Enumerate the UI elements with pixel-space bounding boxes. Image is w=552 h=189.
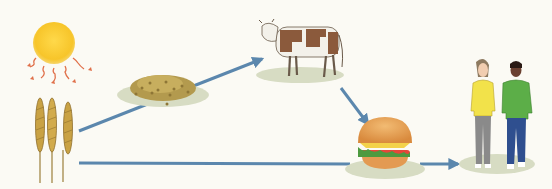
cow-icon: [256, 19, 344, 83]
wheat-icon: [36, 98, 73, 183]
woman-figure: [471, 59, 495, 168]
arrow-cow-to-burger: [341, 88, 368, 124]
food-chain-diagram: [0, 0, 552, 189]
arrow-wheat-to-burger: [79, 163, 350, 164]
grain-pile-icon: [117, 75, 209, 107]
man-figure: [502, 61, 532, 169]
humans-icon: [459, 59, 535, 174]
hamburger-icon: [345, 117, 425, 179]
sun-icon: [27, 22, 92, 84]
